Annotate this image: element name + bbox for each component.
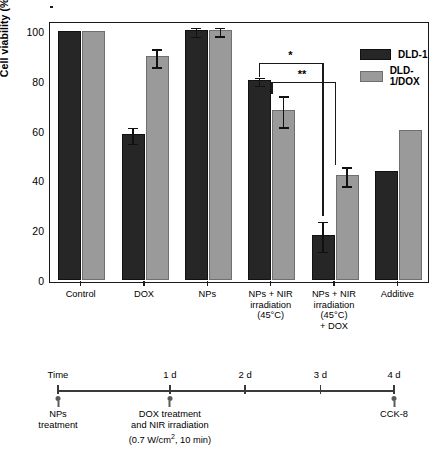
- legend-item: DLD-1/DOX: [360, 65, 428, 87]
- timeline-tick: [57, 385, 59, 394]
- error-bar-cap: [152, 67, 162, 68]
- x-axis-label-line: (45°C): [274, 310, 394, 321]
- y-tick-label: 40: [0, 176, 44, 187]
- legend-swatch-dld1dox: [360, 71, 383, 82]
- legend-item: DLD-1: [360, 49, 428, 60]
- timeline-tick-label: 2 d: [239, 369, 252, 380]
- significance-bracket-stem: [271, 82, 272, 94]
- significance-marker: **: [298, 69, 307, 80]
- error-bar: [156, 49, 157, 67]
- error-bar-cap: [128, 144, 138, 145]
- timeline-tick: [244, 385, 246, 394]
- error-bar-cap: [215, 36, 225, 37]
- pin-stem: [393, 401, 395, 407]
- error-bar-cap: [318, 222, 328, 223]
- x-tick-mark: [143, 281, 144, 286]
- legend-label-dld1dox: DLD-1/DOX: [390, 65, 428, 87]
- bar-dld1: [58, 31, 81, 280]
- timeline-event-label-line: CCK-8: [380, 409, 408, 420]
- timeline-event-label-line: and NIR irradiation: [129, 420, 211, 431]
- error-bar-cap: [191, 28, 201, 29]
- error-bar-cap: [255, 78, 265, 79]
- x-tick-mark: [333, 281, 334, 286]
- error-bar-cap: [342, 167, 352, 168]
- y-tick-mark-minor: [50, 6, 53, 7]
- pin-stem: [169, 401, 171, 407]
- timeline-axis-line: [58, 390, 394, 392]
- timeline-tick: [393, 385, 395, 394]
- bar-dld1: [185, 30, 208, 280]
- y-tick-label: 80: [0, 77, 44, 88]
- chart-legend: DLD-1 DLD-1/DOX: [360, 49, 428, 92]
- x-axis-label: Additive: [337, 289, 448, 300]
- timeline-tick: [320, 385, 322, 394]
- error-bar: [196, 28, 197, 37]
- y-tick-label: 20: [0, 226, 44, 237]
- error-bar: [346, 167, 347, 186]
- significance-bracket-stem: [259, 63, 260, 77]
- significance-bracket-top: [260, 63, 323, 64]
- timeline-event-label-line: (0.7 W/cm2, 10 min): [129, 431, 211, 446]
- bar-dld1dox: [209, 30, 232, 280]
- error-bar-cap: [215, 28, 225, 29]
- y-tick-label: 100: [0, 27, 44, 38]
- bar-dld1: [248, 80, 271, 280]
- bar-dld1dox: [82, 31, 105, 280]
- y-tick-label: 60: [0, 126, 44, 137]
- timeline-start-label: Time: [48, 369, 69, 380]
- timeline-event-pin: [56, 396, 61, 407]
- timeline-tick-label: 1 d: [163, 369, 176, 380]
- error-bar-cap: [342, 186, 352, 187]
- legend-label-dld1: DLD-1: [398, 49, 427, 60]
- error-bar-cap: [318, 252, 328, 253]
- significance-bracket-stem: [335, 82, 336, 165]
- bar-dld1dox: [399, 130, 422, 280]
- timeline-event-pin: [167, 396, 172, 407]
- significance-marker: *: [288, 50, 292, 61]
- x-tick-mark: [270, 281, 271, 286]
- timeline-event-label: DOX treatmentand NIR irradiation(0.7 W/c…: [129, 409, 211, 446]
- error-bar-cap: [255, 86, 265, 87]
- timeline-event-label: CCK-8: [380, 409, 408, 420]
- x-axis-label-line: irradiation: [274, 300, 394, 311]
- significance-bracket-top: [272, 82, 335, 83]
- error-bar: [132, 128, 133, 144]
- y-tick-label: 0: [0, 276, 44, 287]
- x-axis-label-line: + DOX: [274, 321, 394, 332]
- error-bar-cap: [152, 49, 162, 50]
- figure-panel: Cell viability (%) 020406080100 *** DLD-…: [0, 0, 448, 457]
- timeline-tick-label: 3 d: [314, 369, 327, 380]
- pin-stem: [57, 401, 59, 407]
- x-tick-mark: [207, 281, 208, 286]
- timeline-event-label-line: NPs: [38, 409, 77, 420]
- bar-dld1dox: [146, 56, 169, 280]
- x-axis-label-line: Additive: [337, 289, 448, 300]
- error-bar-cap: [279, 127, 289, 128]
- timeline-event-label: NPstreatment: [38, 409, 77, 431]
- timeline-tick-label: 4 d: [387, 369, 400, 380]
- timeline-event-label-line: treatment: [38, 420, 77, 431]
- bar-dld1: [122, 134, 145, 280]
- legend-swatch-dld1: [360, 49, 391, 60]
- timeline-event-pin: [392, 396, 397, 407]
- bar-dld1: [375, 171, 398, 280]
- x-tick-mark: [80, 281, 81, 286]
- timeline-event-label-line: DOX treatment: [129, 409, 211, 420]
- error-bar-cap: [279, 96, 289, 97]
- error-bar: [283, 96, 284, 127]
- error-bar: [322, 222, 323, 252]
- timeline-tick: [169, 385, 171, 394]
- experiment-timeline: Time1 d2 d3 d4 dNPstreatmentDOX treatmen…: [0, 352, 448, 457]
- bar-dld1dox: [272, 110, 295, 280]
- x-tick-mark: [397, 281, 398, 286]
- significance-bracket-stem: [322, 63, 323, 216]
- bar-dld1dox: [336, 175, 359, 280]
- plot-frame: *** DLD-1 DLD-1/DOX: [49, 22, 429, 283]
- error-bar-cap: [191, 37, 201, 38]
- error-bar-cap: [128, 128, 138, 129]
